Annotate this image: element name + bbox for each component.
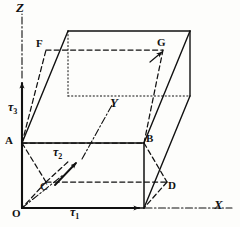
vertex-label-D: D bbox=[168, 180, 176, 191]
axis-label-z: Z bbox=[16, 1, 24, 14]
cube-edge-right-diag bbox=[144, 96, 190, 208]
axis-label-y: Y bbox=[110, 96, 118, 109]
vertex-label-O: O bbox=[12, 208, 21, 219]
axis-y-line bbox=[22, 105, 112, 208]
cube-hidden-edges-dotted bbox=[68, 31, 190, 96]
vertex-label-B: B bbox=[146, 133, 153, 144]
cube-edge-top-right bbox=[144, 31, 190, 143]
vector-label-tau1: τ1 bbox=[70, 206, 79, 221]
figure-canvas: Z X Y τ1 τ2 τ3 O A B C D F G bbox=[0, 0, 240, 227]
vertex-label-C: C bbox=[40, 181, 48, 192]
axis-label-x: X bbox=[214, 198, 223, 211]
cube-diagram-svg bbox=[0, 0, 240, 227]
vertex-label-G: G bbox=[157, 37, 166, 48]
vertex-label-F: F bbox=[36, 38, 43, 49]
vector-label-tau2: τ2 bbox=[53, 146, 62, 161]
arrow-to-G bbox=[150, 52, 162, 62]
vertex-label-A: A bbox=[5, 135, 13, 146]
vector-label-tau3: τ3 bbox=[8, 101, 17, 116]
cube-edge-top-left bbox=[22, 31, 68, 143]
